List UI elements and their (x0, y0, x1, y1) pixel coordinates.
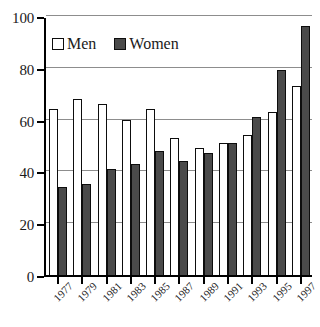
bar-men-1985 (146, 109, 155, 275)
bar-group (49, 18, 67, 275)
legend-label-women: Women (129, 36, 178, 52)
bar-women-1995 (277, 70, 286, 275)
x-tick-mark-1981 (106, 277, 108, 284)
y-tick-mark-60 (37, 121, 44, 123)
bar-men-1989 (195, 148, 204, 275)
x-tick-mark-1989 (203, 277, 205, 284)
bar-women-1989 (204, 153, 213, 275)
legend-item-women: Women (114, 36, 178, 52)
x-tick-mark-1983 (130, 277, 132, 284)
bar-women-1981 (107, 169, 116, 275)
x-tick-mark-1997 (300, 277, 302, 284)
x-tick-label-1983: 1983 (125, 280, 148, 303)
bar-men-1995 (268, 112, 277, 275)
y-tick-label-20: 20 (19, 218, 34, 233)
legend-label-men: Men (67, 36, 96, 52)
y-tick-label-100: 100 (12, 11, 34, 26)
y-tick-mark-20 (37, 224, 44, 226)
x-tick-mark-1987 (178, 277, 180, 284)
x-tick-label-1997: 1997 (295, 280, 318, 303)
plot-area (44, 18, 312, 277)
bar-men-1993 (243, 135, 252, 275)
y-tick-label-80: 80 (19, 62, 34, 77)
bar-group (219, 18, 237, 275)
bar-men-1983 (122, 120, 131, 275)
bar-group (243, 18, 261, 275)
x-tick-label-1995: 1995 (270, 280, 293, 303)
x-tick-mark-1995 (276, 277, 278, 284)
bar-women-1983 (131, 164, 140, 275)
gridline-100 (46, 15, 312, 16)
bar-women-1979 (82, 184, 91, 275)
legend-item-men: Men (52, 36, 96, 52)
bar-group (146, 18, 164, 275)
bar-group (122, 18, 140, 275)
x-tick-label-1981: 1981 (100, 280, 123, 303)
bar-men-1991 (219, 143, 228, 275)
bar-group (73, 18, 91, 275)
bar-men-1977 (49, 109, 58, 275)
y-axis: 020406080100 (0, 0, 44, 296)
bar-men-1987 (170, 138, 179, 275)
bar-women-1997 (301, 26, 310, 275)
bar-women-1985 (155, 151, 164, 275)
bar-chart: 020406080100 197719791981198319851987198… (0, 0, 320, 327)
bar-women-1993 (252, 117, 261, 275)
y-tick-mark-0 (37, 276, 44, 278)
x-tick-label-1977: 1977 (52, 280, 75, 303)
bar-group (98, 18, 116, 275)
y-tick-mark-40 (37, 172, 44, 174)
x-tick-mark-1991 (227, 277, 229, 284)
y-tick-label-40: 40 (19, 166, 34, 181)
bar-women-1977 (58, 187, 67, 275)
bar-group (292, 18, 310, 275)
x-tick-label-1993: 1993 (246, 280, 269, 303)
legend-swatch-women-icon (114, 38, 126, 50)
bar-group (195, 18, 213, 275)
x-tick-mark-1985 (154, 277, 156, 284)
x-tick-label-1987: 1987 (173, 280, 196, 303)
x-tick-label-1991: 1991 (222, 280, 245, 303)
bar-women-1991 (228, 143, 237, 275)
legend-swatch-men-icon (52, 38, 64, 50)
bar-men-1997 (292, 86, 301, 275)
bar-men-1981 (98, 104, 107, 275)
x-tick-mark-1977 (57, 277, 59, 284)
x-tick-mark-1979 (81, 277, 83, 284)
chart-legend: MenWomen (52, 36, 179, 52)
bar-groups (46, 18, 312, 275)
bar-men-1979 (73, 99, 82, 275)
bar-group (170, 18, 188, 275)
y-tick-label-60: 60 (19, 114, 34, 129)
bar-group (268, 18, 286, 275)
bar-women-1987 (179, 161, 188, 275)
x-tick-label-1979: 1979 (76, 280, 99, 303)
y-tick-label-0: 0 (27, 270, 34, 285)
x-tick-label-1989: 1989 (197, 280, 220, 303)
y-tick-mark-100 (37, 17, 44, 19)
x-tick-mark-1993 (251, 277, 253, 284)
x-tick-label-1985: 1985 (149, 280, 172, 303)
x-axis-labels: 1977197919811983198519871989199119931995… (44, 284, 312, 327)
y-tick-mark-80 (37, 69, 44, 71)
